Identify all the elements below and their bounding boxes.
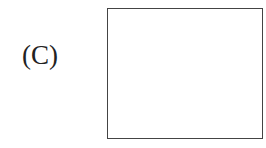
figure-panel: (C) (0, 0, 266, 148)
panel-label: (C) (22, 38, 58, 72)
empty-box (107, 8, 263, 139)
